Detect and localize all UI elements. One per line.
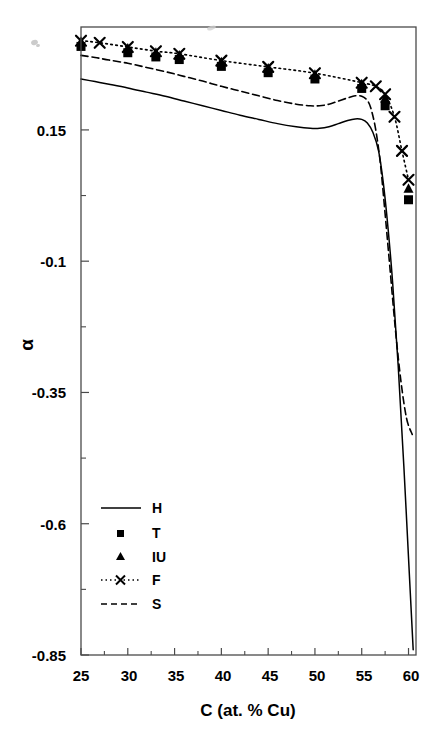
x-marker-glyph xyxy=(397,146,407,156)
y-tick-label: -0.6 xyxy=(40,516,66,533)
y-axis-title: α xyxy=(16,339,37,351)
y-tick-label: -0.85 xyxy=(32,647,66,664)
legend-entry-t: T xyxy=(117,525,161,541)
legend-swatch-triangle-marker xyxy=(116,552,125,560)
x-tick-label: 25 xyxy=(73,667,90,684)
x-marker-glyph xyxy=(390,112,400,122)
y-tick-label: -0.1 xyxy=(40,253,66,270)
series-path-f xyxy=(81,41,409,180)
alpha-vs-copper-line-chart: 25 30 35 40 45 50 55 60 0.15 -0.1 -0.35 … xyxy=(0,0,443,744)
data-series-layer xyxy=(81,41,413,650)
chart-legend: H T IU F S xyxy=(101,500,166,612)
legend-label: T xyxy=(152,525,161,541)
x-axis-tick-labels: 25 30 35 40 45 50 55 60 xyxy=(73,667,420,684)
series-path-h xyxy=(81,79,413,650)
marker-x-f xyxy=(397,146,407,156)
legend-entry-h: H xyxy=(101,500,162,516)
x-axis-title: C (at. % Cu) xyxy=(200,701,295,720)
legend-label: S xyxy=(152,596,161,612)
x-tick-label: 55 xyxy=(356,667,373,684)
legend-label: IU xyxy=(152,549,166,565)
y-tick-label: -0.35 xyxy=(32,384,66,401)
series-path-s xyxy=(81,55,412,434)
legend-label: H xyxy=(152,500,162,516)
y-axis-tick-labels: 0.15 -0.1 -0.35 -0.6 -0.85 xyxy=(32,122,66,664)
x-tick-label: 50 xyxy=(309,667,326,684)
x-tick-label: 40 xyxy=(215,667,232,684)
x-tick-label: 30 xyxy=(121,667,138,684)
marker-square-t xyxy=(404,195,413,204)
y-tick-label: 0.15 xyxy=(37,122,66,139)
marker-x-f xyxy=(390,112,400,122)
legend-entry-s: S xyxy=(101,596,161,612)
x-tick-label: 35 xyxy=(168,667,185,684)
x-tick-label: 60 xyxy=(403,667,420,684)
legend-entry-iu: IU xyxy=(116,549,166,565)
legend-label: F xyxy=(152,572,161,588)
y-axis-major-ticks xyxy=(81,130,89,655)
legend-swatch-square-marker xyxy=(117,530,124,537)
marker-square-t xyxy=(381,101,390,110)
legend-entry-f: F xyxy=(101,572,161,588)
x-tick-label: 45 xyxy=(262,667,279,684)
chart-figure: 25 30 35 40 45 50 55 60 0.15 -0.1 -0.35 … xyxy=(0,0,443,744)
